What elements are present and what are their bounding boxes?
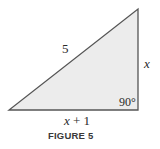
base-label-offset: + 1 bbox=[70, 113, 90, 128]
base-label: x + 1 bbox=[64, 114, 90, 127]
vertical-leg-label: x bbox=[144, 57, 150, 70]
figure-caption: FIGURE 5 bbox=[48, 131, 93, 141]
right-angle-label: 90° bbox=[119, 96, 136, 108]
hypotenuse-label: 5 bbox=[62, 42, 69, 55]
right-triangle-figure: 5 x 90° x + 1 FIGURE 5 bbox=[0, 0, 160, 149]
